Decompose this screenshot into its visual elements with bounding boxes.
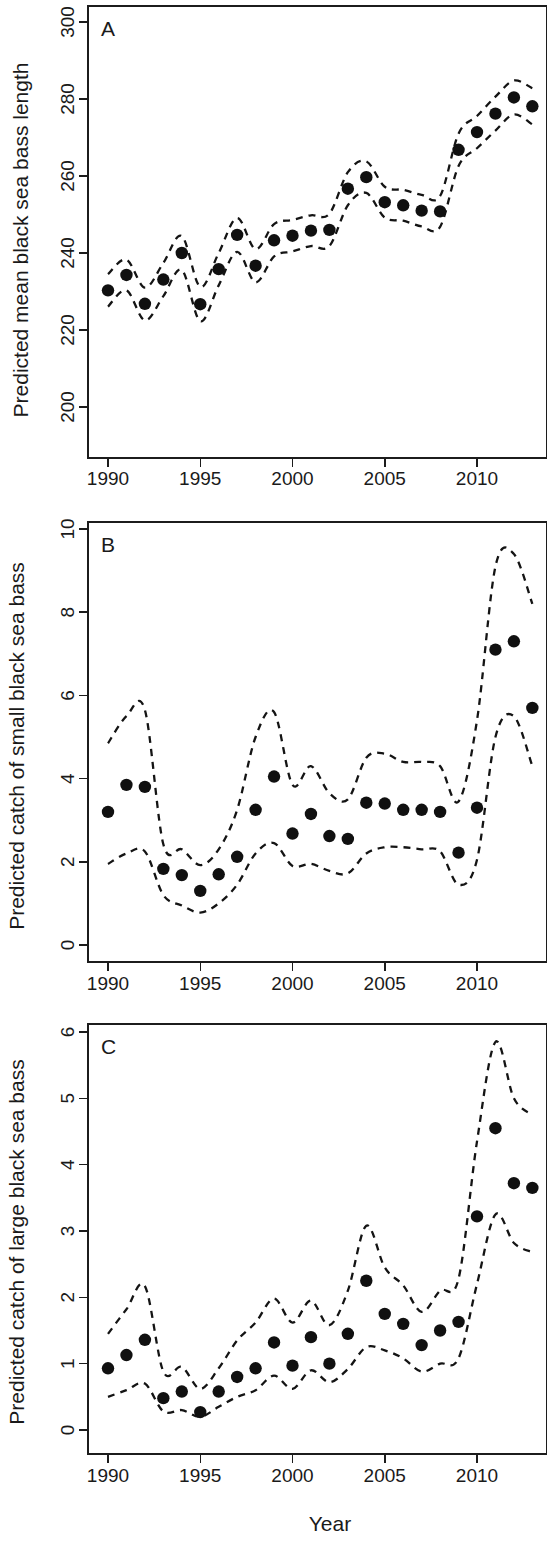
xtick-label: 2000 <box>271 973 313 994</box>
data-point <box>157 863 169 875</box>
data-point <box>139 1334 151 1346</box>
data-point <box>489 643 501 655</box>
data-point <box>415 1339 427 1351</box>
panel-a-svg: Predicted mean black sea bass length 200… <box>0 0 547 510</box>
data-point <box>176 1385 188 1397</box>
ytick-label: 0 <box>57 1425 78 1436</box>
data-point <box>231 1371 243 1383</box>
data-point <box>102 1362 114 1374</box>
ytick-label: 300 <box>57 6 78 38</box>
panel-b-xtick-labels: 19901995200020052010 <box>87 973 498 994</box>
data-point <box>213 1385 225 1397</box>
data-point <box>305 1331 317 1343</box>
panel-b-svg: Predicted catch of small black sea bass … <box>0 510 547 1010</box>
panel-c-plot-frame <box>88 1024 547 1454</box>
panel-b-data-points <box>102 635 539 897</box>
panel-c-xtick-labels: 19901995200020052010 <box>87 1465 498 1486</box>
figure-xlabel: Year <box>309 1512 351 1535</box>
xtick-label: 1995 <box>179 1465 221 1486</box>
data-point <box>508 91 520 103</box>
panel-a-ytick-labels: 200220240260280300 <box>57 6 78 423</box>
ytick-label: 2 <box>57 1292 78 1303</box>
data-point <box>213 263 225 275</box>
data-point <box>526 1182 538 1194</box>
data-point <box>231 851 243 863</box>
data-point <box>305 808 317 820</box>
panel-c-svg: Predicted catch of large black sea bass … <box>0 1010 547 1541</box>
data-point <box>508 635 520 647</box>
xtick-label: 1990 <box>87 468 129 489</box>
ytick-label: 2 <box>57 857 78 868</box>
figure-container: Predicted mean black sea bass length 200… <box>0 0 547 1541</box>
xtick-label: 2005 <box>364 468 406 489</box>
ytick-label: 260 <box>57 160 78 192</box>
ytick-label: 4 <box>57 1159 78 1170</box>
xtick-label: 2010 <box>456 973 498 994</box>
panel-a-plot-frame <box>88 6 547 458</box>
data-point <box>120 269 132 281</box>
data-point <box>157 273 169 285</box>
data-point <box>249 804 261 816</box>
data-point <box>268 770 280 782</box>
data-point <box>102 284 114 296</box>
panel-b-lower-ci <box>108 714 532 913</box>
ytick-label: 10 <box>57 518 78 539</box>
data-point <box>508 1177 520 1189</box>
panel-a-upper-ci <box>108 80 532 287</box>
panel-a-letter: A <box>101 17 115 40</box>
xtick-label: 1990 <box>87 973 129 994</box>
ytick-label: 5 <box>57 1093 78 1104</box>
xtick-label: 2005 <box>364 1465 406 1486</box>
panel-c-upper-ci <box>108 1041 532 1389</box>
panel-c-letter: C <box>101 1035 116 1058</box>
xtick-label: 2000 <box>271 1465 313 1486</box>
data-point <box>194 1406 206 1418</box>
panel-b-upper-ci <box>108 547 532 865</box>
data-point <box>305 224 317 236</box>
data-point <box>489 107 501 119</box>
data-point <box>471 126 483 138</box>
panel-b-plot-frame <box>88 522 547 962</box>
data-point <box>231 229 243 241</box>
data-point <box>286 827 298 839</box>
data-point <box>120 1349 132 1361</box>
panel-c-lower-ci <box>108 1213 532 1416</box>
xtick-label: 2005 <box>364 973 406 994</box>
xtick-label: 2000 <box>271 468 313 489</box>
data-point <box>323 830 335 842</box>
data-point <box>434 806 446 818</box>
ytick-label: 0 <box>57 940 78 951</box>
data-point <box>286 229 298 241</box>
data-point <box>415 804 427 816</box>
xtick-label: 2010 <box>456 468 498 489</box>
panel-c-ylabel: Predicted catch of large black sea bass <box>5 1059 28 1424</box>
panel-b-xtick-marks <box>108 962 477 971</box>
data-point <box>120 779 132 791</box>
ytick-label: 220 <box>57 314 78 346</box>
data-point <box>452 846 464 858</box>
panel-b-ytick-marks <box>79 529 88 945</box>
ytick-label: 8 <box>57 607 78 618</box>
data-point <box>323 224 335 236</box>
data-point <box>434 205 446 217</box>
data-point <box>139 298 151 310</box>
data-point <box>489 1122 501 1134</box>
data-point <box>194 298 206 310</box>
ytick-label: 3 <box>57 1226 78 1237</box>
panel-c-ytick-marks <box>79 1032 88 1430</box>
data-point <box>342 833 354 845</box>
data-point <box>471 802 483 814</box>
data-point <box>268 1336 280 1348</box>
panel-c-xtick-marks <box>108 1454 477 1463</box>
ytick-label: 6 <box>57 690 78 701</box>
panel-a: Predicted mean black sea bass length 200… <box>0 0 547 510</box>
xtick-label: 2010 <box>456 1465 498 1486</box>
panel-b: Predicted catch of small black sea bass … <box>0 510 547 1010</box>
ytick-label: 1 <box>57 1358 78 1369</box>
data-point <box>452 144 464 156</box>
data-point <box>102 806 114 818</box>
ytick-label: 4 <box>57 773 78 784</box>
data-point <box>397 804 409 816</box>
data-point <box>249 1362 261 1374</box>
data-point <box>379 196 391 208</box>
